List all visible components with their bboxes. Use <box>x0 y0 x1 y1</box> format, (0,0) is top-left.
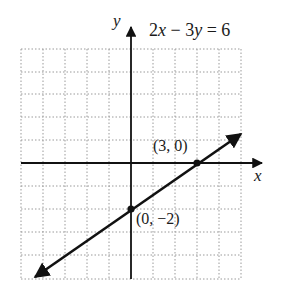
y-axis-label: y <box>111 11 121 30</box>
point-x-intercept <box>193 159 200 166</box>
point-label-x-intercept: (3, 0) <box>153 137 188 155</box>
point-label-y-intercept: (0, −2) <box>136 210 180 228</box>
equation-title: 2x − 3y = 6 <box>149 20 230 40</box>
point-y-intercept <box>127 205 134 212</box>
equation-line <box>35 134 241 277</box>
graph-canvas: y x 2x − 3y = 6 (3, 0) (0, −2) <box>0 0 281 290</box>
x-axis-label: x <box>253 166 262 185</box>
